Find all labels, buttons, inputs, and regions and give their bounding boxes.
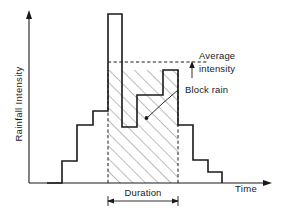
x-axis-arrowhead xyxy=(263,180,272,186)
average-intensity-label-line2: intensity xyxy=(199,63,235,74)
rainfall-hyetograph-figure: Rainfall Intensity Time Average intensit… xyxy=(0,0,282,213)
hyetograph-chart: Rainfall Intensity Time Average intensit… xyxy=(0,0,282,213)
average-intensity-label-line1: Average xyxy=(199,50,235,61)
duration-label: Duration xyxy=(124,187,161,198)
x-axis-label: Time xyxy=(235,183,257,194)
block-rain-label: Block rain xyxy=(185,84,228,95)
y-axis-label: Rainfall Intensity xyxy=(13,66,24,141)
block-rain-leader-dot xyxy=(145,116,149,120)
y-axis-arrowhead xyxy=(26,10,32,19)
block-rain-hatched-region xyxy=(108,70,178,183)
